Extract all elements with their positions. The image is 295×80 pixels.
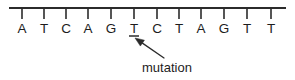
base-letter-2: T	[40, 21, 48, 36]
base-letter-5: G	[106, 21, 117, 36]
base-letter-6-mutated: T	[130, 21, 138, 36]
base-letter-11: T	[243, 21, 251, 36]
base-letter-10: G	[219, 21, 230, 36]
base-letter-group: ATCAGTCTAGTT	[17, 21, 275, 36]
base-tick-group	[22, 8, 271, 19]
base-letter-4: A	[83, 21, 92, 36]
dna-sequence-svg: ATCAGTCTAGTT mutation	[0, 0, 295, 80]
base-letter-12: T	[267, 21, 275, 36]
mutation-arrow-line	[142, 43, 164, 58]
mutation-pointer-group	[135, 38, 164, 58]
base-letter-3: C	[61, 21, 71, 36]
dna-mutation-figure: ATCAGTCTAGTT mutation	[0, 0, 295, 80]
base-letter-7: C	[152, 21, 162, 36]
mutation-arrow-head	[135, 38, 144, 46]
base-letter-1: A	[17, 21, 26, 36]
mutation-label: mutation	[142, 60, 192, 75]
base-letter-9: A	[196, 21, 205, 36]
base-letter-8: T	[175, 21, 183, 36]
